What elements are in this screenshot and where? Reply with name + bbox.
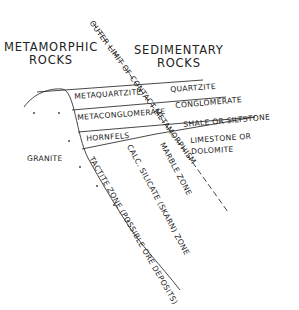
sedimentary-rocks-title: SEDIMENTARY ROCKS [134, 44, 224, 70]
skarn-diagram: METAMORPHIC ROCKS SEDIMENTARY ROCKS OUTE… [0, 0, 299, 310]
metamorphic-rocks-title: METAMORPHIC ROCKS [4, 41, 98, 67]
granite-label: GRANITE [27, 154, 63, 163]
